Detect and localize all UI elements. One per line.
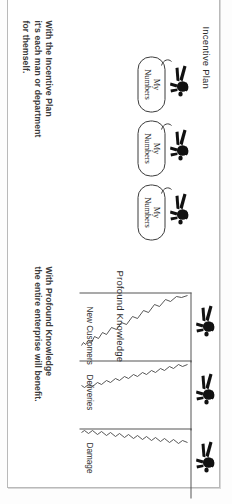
slide-page: Incentive Plan [0,0,232,504]
person-figure-3 [166,64,192,98]
speech-balloon-3-text: My Numbers [139,57,165,111]
balloon-1-line-1: My [152,206,162,218]
balloon-3-line-1: My [152,78,162,90]
speech-balloon-1: My Numbers [138,184,166,240]
speech-balloon-2-text: My Numbers [139,121,165,175]
chart-damage [80,428,192,498]
incentive-plan-heading: Incentive Plan [201,26,212,88]
balloon-2-line-2: Numbers [142,133,152,164]
incentive-plan-caption: With the Incentive Plan it's each man or… [19,20,53,250]
person-figure-4 [192,440,218,474]
balloon-3-line-2: Numbers [142,69,152,100]
person-figure-2 [166,128,192,162]
chart-damage-label: Damage [85,442,94,473]
chart-deliveries-label: Deliveries [85,374,94,410]
speech-balloon-2: My Numbers [138,120,166,176]
balloon-1-line-2: Numbers [142,197,152,228]
chart-deliveries-series [80,360,192,430]
person-figure-5 [192,372,218,406]
chart-new-customers [80,292,192,362]
person-figure-6 [192,304,218,338]
rotated-artwork-stage: Incentive Plan [11,6,222,498]
person-figure-1 [166,192,192,226]
chart-new-customers-series [80,292,192,362]
balloon-2-line-1: My [152,142,162,154]
profound-knowledge-caption: With Profound Knowledge the entire enter… [31,266,54,496]
profound-knowledge-panel: Profound Knowledge [11,252,222,498]
incentive-plan-panel: Incentive Plan [11,6,222,252]
speech-balloon-3: My Numbers [138,56,166,112]
chart-damage-series [80,428,192,498]
chart-new-customers-label: New Customers [85,306,94,364]
chart-deliveries [80,360,192,430]
speech-balloon-1-text: My Numbers [139,185,165,239]
